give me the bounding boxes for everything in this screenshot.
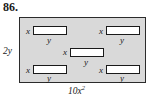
width-label-exponent: 2 bbox=[82, 84, 85, 91]
tile-center bbox=[70, 48, 104, 57]
height-label: 2y bbox=[3, 47, 12, 56]
tile-center-x-label: x bbox=[63, 48, 67, 57]
tile-bottom-right-y-label: y bbox=[120, 74, 124, 83]
width-label-base: 10x bbox=[68, 86, 82, 96]
tile-center-y-label: y bbox=[84, 58, 88, 67]
tile-top-left-y-label: y bbox=[47, 36, 51, 45]
problem-number: 86. bbox=[3, 0, 18, 14]
width-label: 10x2 bbox=[68, 86, 85, 96]
tile-top-right-x-label: x bbox=[99, 27, 103, 36]
tile-bottom-right-x-label: x bbox=[99, 66, 103, 75]
tile-bottom-left-y-label: y bbox=[47, 74, 51, 83]
tile-top-right bbox=[106, 26, 140, 35]
tile-top-right-y-label: y bbox=[120, 36, 124, 45]
tile-top-left-x-label: x bbox=[26, 27, 30, 36]
tile-bottom-left-x-label: x bbox=[26, 66, 30, 75]
tile-top-left bbox=[33, 26, 67, 35]
